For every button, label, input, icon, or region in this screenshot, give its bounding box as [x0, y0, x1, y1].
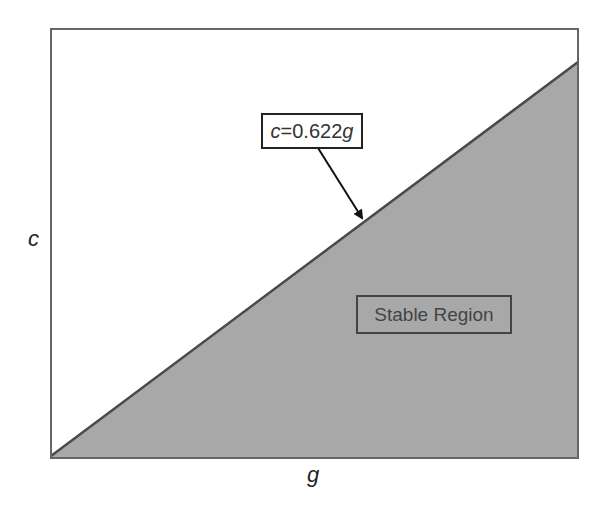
equation-callout: c=0.622g — [261, 113, 363, 149]
callout-variable-g: g — [342, 120, 353, 143]
y-axis-label: c — [28, 226, 39, 252]
callout-equation: =0.622 — [281, 120, 343, 143]
callout-variable-c: c — [271, 120, 281, 143]
plot-figure — [0, 0, 613, 511]
stable-region-label: Stable Region — [356, 295, 512, 334]
x-axis-label: g — [307, 462, 319, 488]
